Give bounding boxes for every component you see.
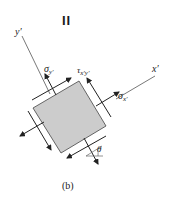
stress-element-figure: II y′ x′ σy′ τx′y′ σx′ θ (b) (0, 0, 170, 208)
figure-marker: II (62, 14, 71, 27)
stress-diagram-graphic (0, 0, 170, 208)
sigma-x-label: σx′ (118, 91, 128, 103)
sigma-x-arrow-left (20, 122, 44, 136)
sigma-y-subscript: y′ (49, 68, 54, 76)
sigma-y-label: σy′ (44, 64, 54, 76)
theta-label: θ (97, 145, 101, 154)
sigma-x-subscript: x′ (123, 95, 128, 103)
figure-caption: (b) (62, 181, 74, 191)
y-prime-axis-label: y′ (15, 27, 22, 37)
x-prime-axis-label: x′ (152, 64, 159, 74)
tau-xy-label: τx′y′ (77, 66, 90, 77)
tau-subscript: x′y′ (80, 69, 89, 77)
